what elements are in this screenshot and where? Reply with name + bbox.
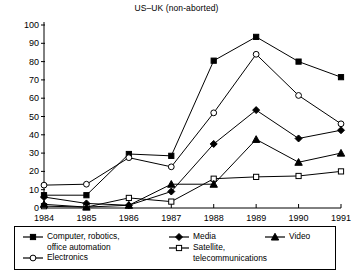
legend-item-4[interactable]: Satellite, telecommunications — [167, 242, 267, 263]
legend-item-1[interactable]: Computer, robotics, office automation — [21, 231, 120, 252]
data-point — [254, 34, 259, 39]
x-tick-label: 1984 — [34, 213, 54, 223]
data-point — [252, 136, 259, 143]
data-point — [169, 199, 174, 204]
legend-marker-glyph — [30, 255, 36, 261]
data-point — [41, 182, 47, 188]
data-point — [338, 121, 344, 127]
x-tick-label: 1990 — [289, 213, 309, 223]
y-tick-label: 100 — [24, 20, 39, 30]
legend-item-5[interactable]: Video — [263, 231, 310, 242]
x-tick-label: 1991 — [331, 213, 351, 223]
data-point — [126, 195, 131, 200]
data-point — [254, 174, 259, 179]
legend-label: Satellite, telecommunications — [193, 242, 267, 263]
series-line — [44, 110, 341, 205]
legend-marker-glyph — [176, 234, 183, 241]
legend-marker — [21, 231, 47, 242]
legend-marker — [21, 252, 47, 263]
data-point — [296, 93, 302, 99]
legend-marker-filled-square-icon — [21, 231, 47, 242]
legend-item-2[interactable]: Electronics — [21, 252, 88, 263]
y-tick-label: 10 — [29, 185, 39, 195]
legend-marker-glyph — [176, 245, 181, 250]
legend-marker — [263, 231, 289, 242]
y-tick-label: 90 — [29, 38, 39, 48]
y-tick-label: 60 — [29, 93, 39, 103]
y-tick-label: 40 — [29, 130, 39, 140]
data-point — [295, 135, 302, 142]
data-point — [337, 149, 344, 156]
chart-svg: 0102030405060708090100198419851986198719… — [0, 14, 353, 219]
data-point — [84, 181, 90, 187]
legend-label: Electronics — [47, 252, 88, 263]
legend-marker — [167, 231, 193, 242]
data-point — [296, 173, 301, 178]
legend-marker-open-circle-icon — [21, 252, 47, 263]
data-point — [84, 193, 89, 198]
legend-label: Computer, robotics, office automation — [47, 231, 120, 252]
y-tick-label: 0 — [34, 203, 39, 213]
x-tick-label: 1988 — [204, 213, 224, 223]
data-point — [338, 75, 343, 80]
legend-marker-filled-triangle-icon — [263, 231, 289, 242]
y-tick-label: 30 — [29, 148, 39, 158]
x-tick-label: 1986 — [119, 213, 139, 223]
y-tick-label: 70 — [29, 75, 39, 85]
chart-title: US–UK (non-aborted) — [0, 3, 353, 13]
data-point — [126, 155, 132, 161]
legend-marker-open-square-icon — [167, 242, 193, 253]
data-point — [253, 51, 259, 57]
x-tick-label: 1987 — [161, 213, 181, 223]
data-point — [338, 169, 343, 174]
legend-marker — [167, 242, 193, 253]
plot-area: 0102030405060708090100198419851986198719… — [0, 14, 353, 219]
data-point — [296, 59, 301, 64]
data-point — [338, 127, 345, 134]
data-point — [211, 58, 216, 63]
legend-marker-filled-diamond-icon — [167, 231, 193, 242]
chart-figure: US–UK (non-aborted) 01020304050607080901… — [0, 0, 353, 274]
legend-label: Media — [193, 231, 216, 242]
data-point — [169, 153, 174, 158]
chart-legend: Computer, robotics, office automationEle… — [14, 226, 336, 270]
data-point — [211, 110, 217, 116]
legend-label: Video — [289, 231, 310, 242]
data-point — [168, 164, 174, 170]
y-tick-label: 50 — [29, 112, 39, 122]
y-tick-label: 80 — [29, 57, 39, 67]
x-tick-label: 1989 — [246, 213, 266, 223]
legend-item-3[interactable]: Media — [167, 231, 216, 242]
legend-marker-glyph — [30, 234, 35, 239]
y-tick-label: 20 — [29, 166, 39, 176]
x-tick-label: 1985 — [76, 213, 96, 223]
